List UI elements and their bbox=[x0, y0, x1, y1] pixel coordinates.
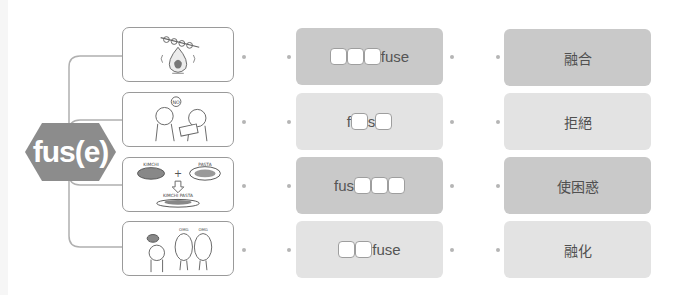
plus-sign: + bbox=[174, 168, 182, 179]
connector-dot[interactable] bbox=[450, 120, 454, 124]
meaning-card-2[interactable]: 拒絕 bbox=[504, 93, 651, 150]
word-pattern-card-2[interactable]: fs bbox=[296, 93, 443, 150]
letter-blank-box[interactable] bbox=[364, 48, 381, 65]
meaning-card-4[interactable]: 融化 bbox=[504, 221, 651, 278]
letter-blank-box[interactable] bbox=[388, 177, 405, 194]
meaning-text: 使困惑 bbox=[557, 176, 599, 196]
word-pattern: fuse bbox=[330, 48, 409, 65]
pasta-label: PASTA bbox=[198, 162, 211, 167]
connector-dot[interactable] bbox=[242, 120, 246, 124]
word-pattern-card-3[interactable]: fus bbox=[296, 157, 443, 214]
connector-dot[interactable] bbox=[287, 55, 291, 59]
connector-dot[interactable] bbox=[496, 120, 500, 124]
picture-card-3: KIMCHI + PASTA KIMCHI PASTA bbox=[122, 157, 234, 212]
connector-dot[interactable] bbox=[496, 248, 500, 252]
burning-skewer-illustration-icon bbox=[123, 28, 233, 81]
meaning-text: 融化 bbox=[564, 240, 592, 260]
omg-label-1: OMG bbox=[179, 227, 188, 232]
connector-dot[interactable] bbox=[450, 55, 454, 59]
word-pattern: fus bbox=[334, 177, 405, 194]
refusal-illustration-icon: NO bbox=[123, 93, 233, 146]
kimchi-pasta-label: KIMCHI PASTA bbox=[163, 193, 193, 198]
letter-blank-box[interactable] bbox=[354, 177, 371, 194]
word-pattern: fuse bbox=[338, 241, 400, 258]
confused-twins-illustration-icon: OMG OMG bbox=[123, 222, 233, 275]
picture-card-1 bbox=[122, 27, 234, 82]
kimchi-pasta-illustration-icon: KIMCHI + PASTA KIMCHI PASTA bbox=[123, 158, 233, 211]
connector-dot[interactable] bbox=[450, 184, 454, 188]
root-label: fus(e) bbox=[25, 123, 116, 181]
connector-dot[interactable] bbox=[287, 120, 291, 124]
connector-dot[interactable] bbox=[242, 184, 246, 188]
word-pattern-card-4[interactable]: fuse bbox=[296, 221, 443, 278]
letter-segment: fuse bbox=[381, 48, 409, 65]
omg-label-2: OMG bbox=[198, 227, 207, 232]
connector-dot[interactable] bbox=[242, 248, 246, 252]
picture-card-2: NO bbox=[122, 92, 234, 147]
picture-card-4: OMG OMG bbox=[122, 221, 234, 276]
meaning-card-3[interactable]: 使困惑 bbox=[504, 157, 651, 214]
no-bubble-text: NO bbox=[172, 100, 180, 105]
meaning-text: 融合 bbox=[564, 48, 592, 68]
letter-blank-box[interactable] bbox=[330, 48, 347, 65]
word-pattern: fs bbox=[347, 113, 393, 130]
connector-dot[interactable] bbox=[242, 55, 246, 59]
connector-dot[interactable] bbox=[496, 55, 500, 59]
letter-segment: s bbox=[368, 113, 376, 130]
letter-blank-box[interactable] bbox=[371, 177, 388, 194]
letter-segment: fuse bbox=[372, 241, 400, 258]
letter-segment: fus bbox=[334, 177, 354, 194]
letter-blank-box[interactable] bbox=[338, 241, 355, 258]
letter-blank-box[interactable] bbox=[355, 241, 372, 258]
meaning-text: 拒絕 bbox=[564, 112, 592, 132]
letter-blank-box[interactable] bbox=[351, 113, 368, 130]
connector-dot[interactable] bbox=[450, 248, 454, 252]
kimchi-label: KIMCHI bbox=[143, 162, 158, 167]
word-pattern-card-1[interactable]: fuse bbox=[296, 28, 443, 85]
connector-dot[interactable] bbox=[287, 184, 291, 188]
connector-dot[interactable] bbox=[287, 248, 291, 252]
letter-blank-box[interactable] bbox=[375, 113, 392, 130]
letter-blank-box[interactable] bbox=[347, 48, 364, 65]
connector-dot[interactable] bbox=[496, 184, 500, 188]
meaning-card-1[interactable]: 融合 bbox=[504, 29, 651, 86]
